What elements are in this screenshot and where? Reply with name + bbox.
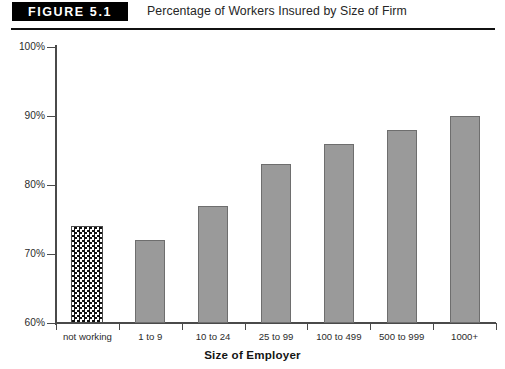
x-axis-category-label: not working bbox=[56, 332, 119, 342]
y-axis-tick bbox=[47, 116, 56, 117]
x-axis-tick bbox=[370, 323, 371, 330]
x-axis-category-label: 100 to 499 bbox=[307, 332, 370, 342]
x-axis-tick bbox=[245, 323, 246, 330]
x-axis-tick bbox=[182, 323, 183, 330]
bar bbox=[261, 164, 291, 323]
y-axis-tick-label: 100% bbox=[1, 42, 45, 52]
x-axis-tick bbox=[496, 323, 497, 330]
bar bbox=[324, 144, 354, 323]
bar bbox=[71, 226, 103, 323]
x-axis-category-label: 25 to 99 bbox=[245, 332, 308, 342]
x-axis-tick bbox=[119, 323, 120, 330]
y-axis-tick bbox=[47, 185, 56, 186]
y-axis-tick bbox=[47, 323, 56, 324]
x-axis-title: Size of Employer bbox=[0, 348, 505, 361]
y-axis-tick-label: 70% bbox=[1, 249, 45, 259]
x-axis-tick bbox=[56, 323, 57, 330]
bar bbox=[450, 116, 480, 323]
bar-chart: 100%90%80%70%60% not working1 to 910 to … bbox=[0, 0, 505, 369]
x-axis-category-label: 500 to 999 bbox=[370, 332, 433, 342]
y-axis-tick-label: 60% bbox=[1, 318, 45, 328]
bar bbox=[135, 240, 165, 323]
x-axis-tick bbox=[433, 323, 434, 330]
bar bbox=[387, 130, 417, 323]
x-axis-category-label: 1 to 9 bbox=[119, 332, 182, 342]
bar bbox=[198, 206, 228, 323]
x-axis-tick bbox=[307, 323, 308, 330]
y-axis-tick-label: 90% bbox=[1, 111, 45, 121]
x-axis-category-label: 1000+ bbox=[433, 332, 496, 342]
x-axis-category-label: 10 to 24 bbox=[182, 332, 245, 342]
y-axis-tick bbox=[47, 254, 56, 255]
y-axis-tick-label: 80% bbox=[1, 180, 45, 190]
y-axis-tick bbox=[47, 47, 56, 48]
